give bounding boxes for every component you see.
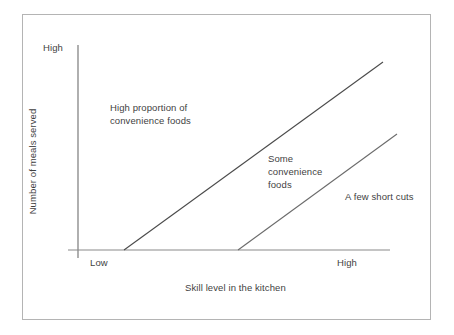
y-axis-title: Number of meals served <box>26 102 39 222</box>
x-axis-high-label: High <box>337 256 357 269</box>
x-axis-low-label: Low <box>90 256 108 269</box>
x-axis-title: Skill level in the kitchen <box>185 281 286 294</box>
annotation-high-proportion-convenience-foods: High proportion of convenience foods <box>110 101 191 127</box>
annotation-some-convenience-foods: Some convenience foods <box>268 152 322 191</box>
figure-root: Number of meals served High Low High Ski… <box>0 0 454 335</box>
y-axis-high-label: High <box>43 41 63 54</box>
annotation-a-few-short-cuts: A few short cuts <box>345 190 414 203</box>
upper-boundary-line <box>124 62 383 250</box>
